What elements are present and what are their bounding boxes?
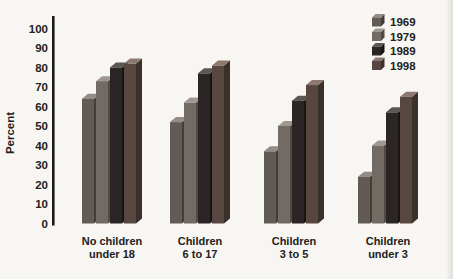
bar-1998 xyxy=(212,61,230,224)
x-category-labels: No childrenunder 18Children6 to 17Childr… xyxy=(82,235,411,260)
x-category-label: Children3 to 5 xyxy=(272,235,317,260)
x-category-label: Children6 to 17 xyxy=(178,235,223,260)
y-tick-label: 70 xyxy=(35,81,48,93)
bar-front-face xyxy=(170,122,182,223)
bar-front-face xyxy=(82,99,94,224)
y-tick-label: 100 xyxy=(29,23,48,35)
x-category-label: No childrenunder 18 xyxy=(82,235,143,260)
bar-front-face xyxy=(212,66,224,224)
y-tick-label: 0 xyxy=(42,218,48,230)
y-tick-label: 60 xyxy=(35,101,48,113)
y-tick-label: 80 xyxy=(35,62,48,74)
legend-item-1989: 1989 xyxy=(372,43,416,57)
y-tick-label: 20 xyxy=(35,179,48,191)
y-tick-label: 10 xyxy=(35,198,48,210)
y-tick-label: 90 xyxy=(35,42,48,54)
y-tick-label: 40 xyxy=(35,140,48,152)
bar-front-face xyxy=(278,126,290,224)
bar-side-face xyxy=(224,61,230,224)
bar-side-face xyxy=(318,80,324,223)
bar-front-face xyxy=(110,68,122,224)
x-category-label: Childrenunder 3 xyxy=(366,235,411,260)
bar-front-face xyxy=(184,103,196,224)
legend-cube-icon xyxy=(372,47,381,56)
bar-front-face xyxy=(198,73,210,223)
y-axis-line xyxy=(52,16,55,226)
bar-front-face xyxy=(124,64,136,224)
bar-front-face xyxy=(96,81,108,223)
bar-front-face xyxy=(386,112,398,223)
bar-group-2 xyxy=(170,61,230,224)
legend-cube-icon xyxy=(372,32,381,41)
bar-1998 xyxy=(124,59,142,224)
bar-group-3 xyxy=(264,80,324,223)
bar-side-face xyxy=(412,92,418,224)
legend-cube-icon xyxy=(372,18,381,27)
bar-group-1 xyxy=(82,59,142,224)
y-tick-labels: 0102030405060708090100 xyxy=(29,23,48,230)
legend-item-1998: 1998 xyxy=(372,58,416,72)
legend-cube-icon xyxy=(372,61,381,70)
bar-side-face xyxy=(136,59,142,224)
legend-label: 1998 xyxy=(390,60,416,72)
y-axis-title: Percent xyxy=(4,112,16,154)
legend-label: 1969 xyxy=(390,16,416,28)
legend-label: 1979 xyxy=(390,31,416,43)
y-tick-label: 30 xyxy=(35,159,48,171)
bar-front-face xyxy=(372,146,384,224)
legend-label: 1989 xyxy=(390,45,416,57)
bar-1998 xyxy=(400,92,418,224)
figure: 0102030405060708090100PercentNo children… xyxy=(0,0,453,279)
bar-front-face xyxy=(264,151,276,223)
legend: 1969197919891998 xyxy=(372,14,416,72)
bar-chart-svg: 0102030405060708090100PercentNo children… xyxy=(0,0,453,279)
bar-front-face xyxy=(306,85,318,223)
bar-front-face xyxy=(400,97,412,224)
y-tick-label: 50 xyxy=(35,120,48,132)
legend-item-1979: 1979 xyxy=(372,29,416,43)
legend-item-1969: 1969 xyxy=(372,14,416,28)
bar-group-4 xyxy=(358,92,418,224)
bar-front-face xyxy=(292,101,304,224)
bar-1998 xyxy=(306,80,324,223)
bar-front-face xyxy=(358,177,370,224)
